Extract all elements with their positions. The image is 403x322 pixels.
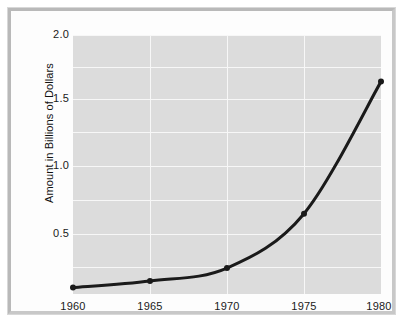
data-series-line [73,35,381,294]
data-point-1975 [301,211,307,217]
y-tick-label-1-5: 1.5 [13,92,69,104]
y-axis-tick-labels: 2.0 1.5 1.0 0.5 [11,35,69,294]
y-tick-label-1-0: 1.0 [13,159,69,171]
data-point-1970 [224,265,230,271]
data-point-1980 [378,79,384,85]
data-point-1965 [147,278,153,284]
x-tick-label-1970: 1970 [197,300,257,312]
figure-canvas: Amount in Billions of Dollars 2.0 1.5 1.… [11,11,392,311]
x-tick-label-1975: 1975 [274,300,334,312]
line-path [73,82,381,288]
y-tick-label-0-5: 0.5 [13,227,69,239]
figure-frame: Amount in Billions of Dollars 2.0 1.5 1.… [8,8,395,314]
x-axis-tick-labels: 1960 1965 1970 1975 1980 [73,300,381,316]
x-tick-label-1965: 1965 [120,300,180,312]
x-tick-label-1960: 1960 [43,300,103,312]
data-point-markers [70,79,384,291]
x-tick-label-1980: 1980 [349,300,403,312]
data-point-1960 [70,285,76,291]
y-tick-label-2-0: 2.0 [13,28,69,40]
